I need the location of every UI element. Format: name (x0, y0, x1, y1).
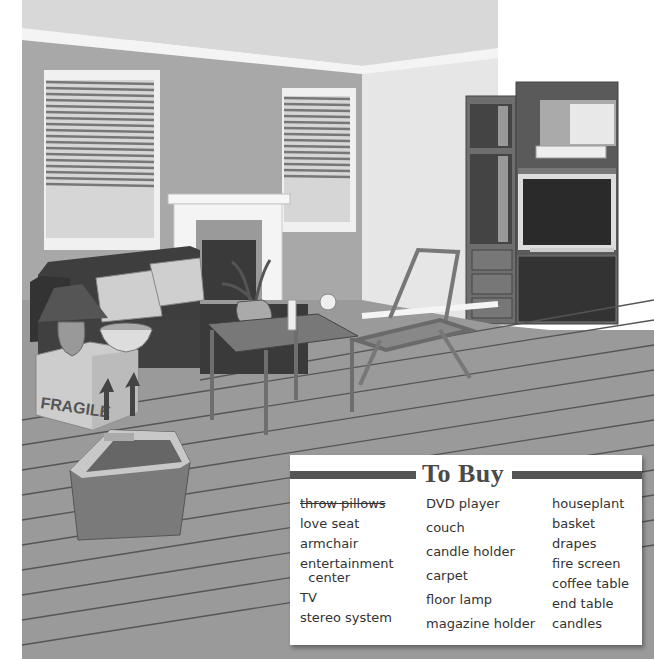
list-item: stereo system (300, 611, 392, 625)
list-item: end table (552, 597, 614, 611)
right-window (282, 88, 356, 232)
left-window (44, 70, 160, 250)
list-item: basket (552, 517, 595, 531)
list-item: drapes (552, 537, 597, 551)
list-item: armchair (300, 537, 358, 551)
dvd-player (536, 146, 606, 158)
candle-holder (288, 300, 296, 330)
list-item: magazine holder (426, 617, 535, 631)
list-item: throw pillows (300, 497, 386, 511)
list-item: carpet (426, 569, 468, 583)
list-item: fire screen (552, 557, 621, 571)
to-buy-title: To Buy (422, 459, 504, 489)
header-rule-right (512, 471, 642, 479)
list-item: houseplant (552, 497, 624, 511)
to-buy-header: To Buy (290, 455, 642, 491)
entertainment-center (466, 82, 618, 324)
to-buy-list: To Buy throw pillows love seat armchair … (290, 455, 642, 645)
list-item: love seat (300, 517, 359, 531)
header-rule-left (290, 471, 416, 479)
list-item: candles (552, 617, 602, 631)
list-item: candle holder (426, 545, 515, 559)
fragile-box: FRAGILE (36, 342, 140, 430)
list-item: coffee table (552, 577, 629, 591)
list-item: entertainment center (300, 557, 394, 585)
list-item: DVD player (426, 497, 500, 511)
list-item: couch (426, 521, 465, 535)
list-item: floor lamp (426, 593, 492, 607)
list-item: TV (300, 591, 317, 605)
